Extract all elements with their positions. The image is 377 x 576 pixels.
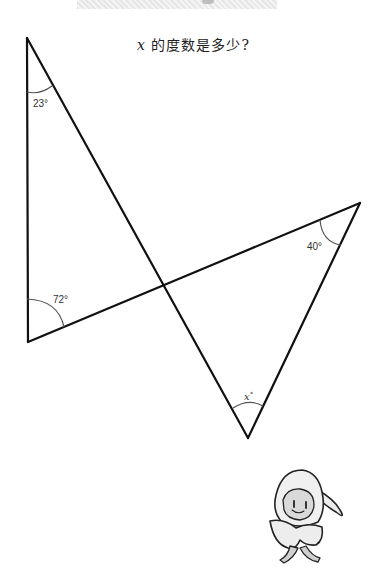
- left-vertical-line: [27, 38, 28, 342]
- angle-label-23: 23°: [33, 98, 48, 109]
- geometry-diagram: 23° 72° 40° x°: [0, 0, 377, 576]
- angle-label-x: x°: [244, 391, 253, 402]
- right-line-to-bottom: [248, 203, 360, 438]
- angle-arc-23: [27, 86, 52, 93]
- angle-label-40: 40°: [307, 241, 322, 252]
- angle-arc-x: [233, 402, 263, 408]
- diagonal-line-top-to-bottom: [27, 38, 248, 438]
- hooded-character-mascot-icon: [270, 470, 342, 563]
- angle-label-72: 72°: [53, 294, 68, 305]
- angle-arc-40: [320, 220, 341, 245]
- diagonal-line-left-to-right: [28, 203, 360, 342]
